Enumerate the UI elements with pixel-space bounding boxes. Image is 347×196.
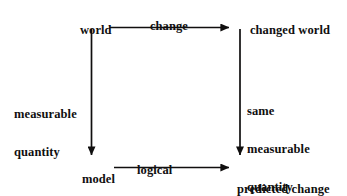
edge-label-same-line-2: measurable xyxy=(247,143,310,156)
edge-label-measurable-line-2: quantity xyxy=(14,146,77,159)
edge-label-same-line-3: quantity xyxy=(247,181,310,194)
node-world: world xyxy=(67,11,112,49)
edge-label-logical-line-1: logical xyxy=(137,164,195,177)
edge-label-same-measurable-quantity: same measurable quantity xyxy=(247,80,310,196)
node-changed-world: changed world xyxy=(237,11,330,49)
edge-label-measurable-quantity: measurable quantity xyxy=(14,83,77,184)
edge-label-change-text: change xyxy=(150,19,188,33)
edge-label-change: change xyxy=(137,7,188,45)
edge-label-same-line-1: same xyxy=(247,105,310,118)
node-model-label: model xyxy=(82,172,115,186)
node-changed-world-label: changed world xyxy=(250,23,330,37)
edge-label-logical-entailment: logical entailment xyxy=(137,139,195,196)
diagram-canvas: world changed world model predicted chan… xyxy=(0,0,347,196)
node-world-label: world xyxy=(80,23,112,37)
edge-label-measurable-line-1: measurable xyxy=(14,108,77,121)
